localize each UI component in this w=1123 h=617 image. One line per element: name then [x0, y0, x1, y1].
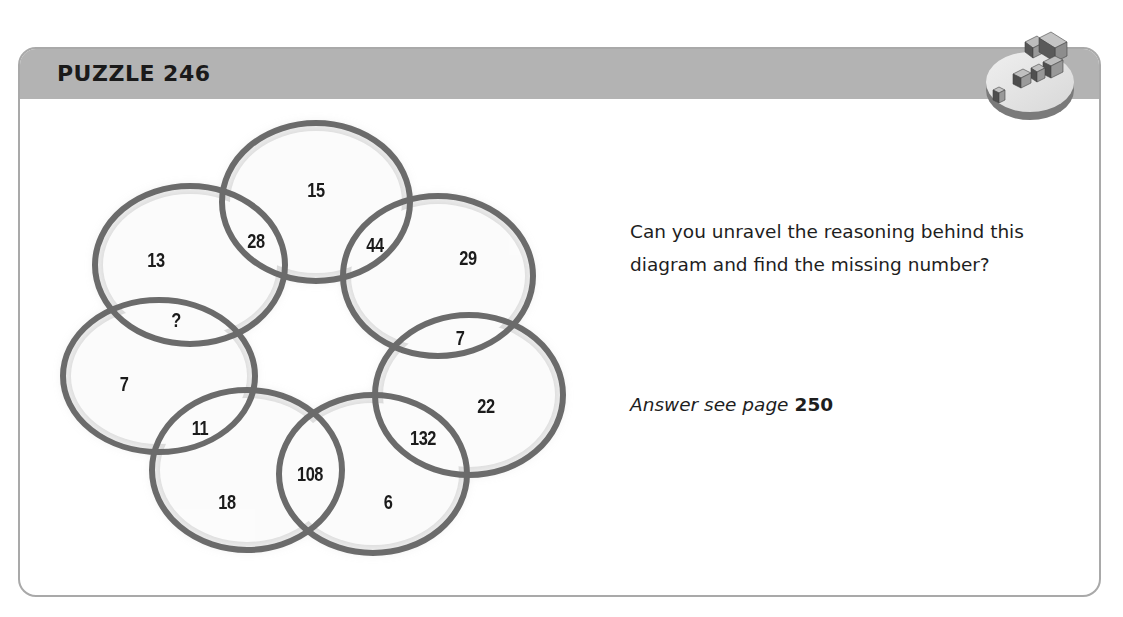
- value-left-bottom-left-overlap: 11: [189, 416, 210, 440]
- value-left: 7: [118, 372, 129, 396]
- value-bottom-left: 18: [216, 490, 238, 514]
- value-upper-left: 13: [145, 248, 167, 272]
- answer-page-number: 250: [795, 394, 834, 415]
- overlapping-ellipses-diagram: [0, 0, 620, 617]
- value-missing-question: ?: [170, 308, 182, 332]
- value-upper-right: 29: [457, 246, 479, 270]
- answer-reference: Answer see page250: [630, 394, 833, 415]
- answer-prefix: Answer see page: [630, 394, 789, 415]
- value-right: 22: [475, 394, 497, 418]
- value-bottom-overlap: 108: [293, 462, 327, 486]
- question-mark-icon: [975, 26, 1085, 126]
- value-upper-right-right-overlap: 7: [454, 326, 465, 350]
- value-right-bottom-right-overlap: 132: [406, 426, 440, 450]
- value-bottom-right: 6: [382, 490, 393, 514]
- value-top-upper-right-overlap: 44: [364, 233, 386, 257]
- value-top-upper-left-overlap: 28: [245, 229, 267, 253]
- puzzle-question: Can you unravel the reasoning behind thi…: [630, 215, 1050, 281]
- value-top: 15: [305, 178, 327, 202]
